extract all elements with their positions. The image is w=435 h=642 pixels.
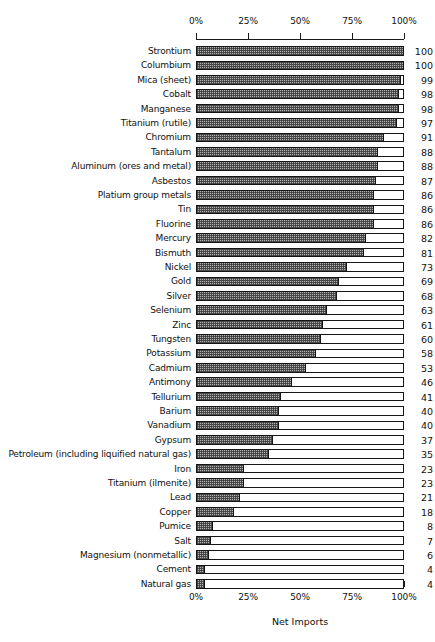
- category-label: Petroleum (including liquified natural g…: [0, 449, 191, 460]
- bar-value-label: 82: [407, 233, 433, 244]
- bar-fill: [197, 191, 374, 199]
- bar-fill: [197, 62, 403, 70]
- chart-row: Natural gas4: [0, 578, 435, 592]
- chart-row: Asbestos87: [0, 175, 435, 189]
- bar-value-label: 4: [407, 579, 433, 590]
- bar-value-label: 41: [407, 392, 433, 403]
- bar-track: [196, 277, 404, 287]
- bar-fill: [197, 249, 364, 257]
- chart-row: Antimony46: [0, 376, 435, 390]
- bar-fill: [197, 494, 240, 502]
- bar-value-label: 18: [407, 507, 433, 518]
- category-label: Bismuth: [0, 248, 191, 259]
- chart-row: Nickel73: [0, 261, 435, 275]
- bar-track: [196, 377, 404, 387]
- chart-row: Cadmium53: [0, 362, 435, 376]
- bar-fill: [197, 522, 213, 530]
- bar-value-label: 97: [407, 118, 433, 129]
- bar-value-label: 61: [407, 320, 433, 331]
- chart-row: Tin86: [0, 203, 435, 217]
- bar-track: [196, 521, 404, 531]
- bar-value-label: 91: [407, 132, 433, 143]
- axis-tick: [352, 33, 353, 39]
- bar-fill: [197, 162, 378, 170]
- chart-row: Gold69: [0, 275, 435, 289]
- bar-track: [196, 305, 404, 315]
- chart-row: Tungsten60: [0, 333, 435, 347]
- bar-value-label: 99: [407, 75, 433, 86]
- category-label: Aluminum (ores and metal): [0, 161, 191, 172]
- bar-value-label: 8: [407, 521, 433, 532]
- bar-value-label: 73: [407, 262, 433, 273]
- category-label: Gypsum: [0, 435, 191, 446]
- bar-track: [196, 233, 404, 243]
- chart-row: Mercury82: [0, 232, 435, 246]
- chart-row: Fluorine86: [0, 218, 435, 232]
- bar-value-label: 100: [407, 60, 433, 71]
- chart-row: Petroleum (including liquified natural g…: [0, 448, 435, 462]
- bar-track: [196, 118, 404, 128]
- bar-value-label: 21: [407, 492, 433, 503]
- chart-row: Cobalt98: [0, 88, 435, 102]
- category-label: Mica (sheet): [0, 75, 191, 86]
- category-label: Salt: [0, 536, 191, 547]
- axis-tick-label: 75%: [342, 16, 362, 26]
- bar-fill: [197, 537, 211, 545]
- chart-row: Aluminum (ores and metal)88: [0, 160, 435, 174]
- bar-track: [196, 334, 404, 344]
- chart-row: Potassium58: [0, 347, 435, 361]
- chart-row: Vanadium40: [0, 419, 435, 433]
- bar-fill: [197, 263, 347, 271]
- category-label: Titanium (rutile): [0, 118, 191, 129]
- category-label: Barium: [0, 406, 191, 417]
- bar-value-label: 6: [407, 550, 433, 561]
- category-label: Asbestos: [0, 176, 191, 187]
- bar-fill: [197, 580, 205, 588]
- axis-tick-label: 50%: [290, 592, 310, 602]
- bar-track: [196, 176, 404, 186]
- bar-fill: [197, 450, 269, 458]
- bar-track: [196, 435, 404, 445]
- bar-fill: [197, 148, 378, 156]
- bar-fill: [197, 306, 327, 314]
- bar-track: [196, 205, 404, 215]
- axis-tick-label: 0%: [189, 592, 203, 602]
- bar-track: [196, 363, 404, 373]
- axis-tick-label: 100%: [391, 16, 416, 26]
- bar-fill: [197, 335, 321, 343]
- bar-track: [196, 493, 404, 503]
- bar-value-label: 68: [407, 291, 433, 302]
- bar-value-label: 23: [407, 464, 433, 475]
- bar-value-label: 87: [407, 176, 433, 187]
- axis-tick: [404, 33, 405, 39]
- bar-track: [196, 248, 404, 258]
- chart-row: Bismuth81: [0, 247, 435, 261]
- bar-fill: [197, 436, 273, 444]
- bar-fill: [197, 76, 401, 84]
- bar-fill: [197, 407, 279, 415]
- bar-fill: [197, 566, 205, 574]
- bar-fill: [197, 47, 403, 55]
- bar-fill: [197, 119, 397, 127]
- bar-fill: [197, 292, 337, 300]
- bar-value-label: 37: [407, 435, 433, 446]
- bar-value-label: 35: [407, 449, 433, 460]
- category-label: Nickel: [0, 262, 191, 273]
- bar-fill: [197, 393, 281, 401]
- bar-fill: [197, 278, 339, 286]
- bar-fill: [197, 321, 323, 329]
- axis-line-top: [196, 39, 404, 40]
- bar-track: [196, 104, 404, 114]
- bar-track: [196, 507, 404, 517]
- chart-row: Titanium (ilmenite)23: [0, 477, 435, 491]
- bar-track: [196, 478, 404, 488]
- bar-fill: [197, 105, 399, 113]
- category-label: Tantalum: [0, 147, 191, 158]
- chart-row: Mica (sheet)99: [0, 74, 435, 88]
- bar-track: [196, 190, 404, 200]
- bar-value-label: 53: [407, 363, 433, 374]
- bar-track: [196, 565, 404, 575]
- bar-fill: [197, 90, 399, 98]
- chart-row: Platium group metals86: [0, 189, 435, 203]
- category-label: Titanium (ilmenite): [0, 478, 191, 489]
